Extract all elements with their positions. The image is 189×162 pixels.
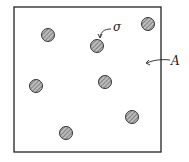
particle-circle — [142, 18, 155, 31]
area-pointer-arrow — [147, 60, 170, 63]
particle-circle — [42, 29, 55, 42]
particle-circle — [99, 76, 112, 89]
sigma-label: σ — [113, 20, 122, 34]
sigma-pointer-arrow — [100, 29, 111, 37]
particle-circle — [60, 127, 73, 140]
diagram-canvas: σ A — [0, 0, 189, 162]
area-label: A — [170, 54, 180, 68]
particle-circle — [126, 111, 139, 124]
particle-circle — [91, 40, 104, 53]
particle-circle — [30, 80, 43, 93]
